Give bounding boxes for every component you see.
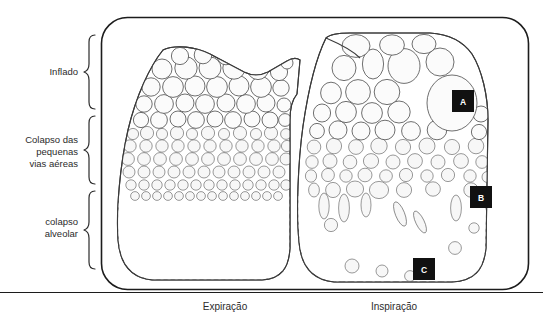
zone-label-line-3: vias aéreas xyxy=(29,158,78,169)
marker-a-label: A xyxy=(460,97,466,107)
zone-label-line-1: colapso xyxy=(45,216,78,227)
zone-label-colapso-alveolar: colapso alveolar xyxy=(45,216,78,239)
zone-label-line-2: pequenas xyxy=(36,146,78,157)
marker-b-label: B xyxy=(478,193,484,203)
zone-label-colapso-pequenas-vias: Colapso das pequenas vias aéreas xyxy=(25,134,78,169)
brace-inflado xyxy=(84,35,95,109)
marker-c-label: C xyxy=(421,265,427,275)
marker-a: A xyxy=(452,90,474,112)
zone-label-line-2: alveolar xyxy=(45,228,78,239)
zone-label-line-1: Colapso das xyxy=(25,134,78,145)
lung-alveolar-diagram: Inflado Colapso das pequenas vias aéreas… xyxy=(0,0,543,324)
panel-caption-expiracao: Expiração xyxy=(203,301,248,312)
zone-braces xyxy=(84,35,95,269)
marker-c: C xyxy=(413,258,435,280)
panel-caption-inspiracao: Inspiração xyxy=(371,301,418,312)
brace-colapso-pequenas-vias xyxy=(84,116,95,184)
brace-colapso-alveolar xyxy=(84,191,95,269)
marker-b: B xyxy=(470,186,492,208)
zone-label-inflado: Inflado xyxy=(49,66,78,77)
